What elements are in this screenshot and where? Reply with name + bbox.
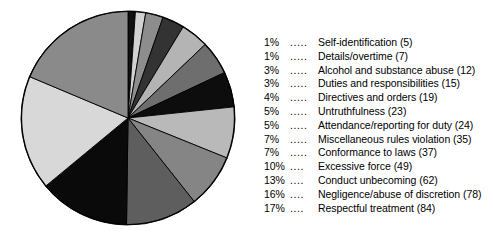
legend-row: 7%.....Conformance to laws (37) [264, 146, 492, 160]
legend-percent: 13% [264, 174, 290, 188]
legend-dot-leader: ..... [290, 36, 318, 50]
legend-percent: 7% [264, 133, 290, 147]
legend-label: Conformance to laws (37) [318, 146, 492, 160]
legend-label: Excessive force (49) [318, 160, 492, 174]
legend-dot-leader: .... [290, 160, 318, 174]
legend-percent: 3% [264, 64, 290, 78]
legend-row: 1%.....Details/overtime (7) [264, 50, 492, 64]
legend-label: Alcohol and substance abuse (12) [318, 64, 492, 78]
legend-dot-leader: ..... [290, 105, 318, 119]
legend-percent: 7% [264, 146, 290, 160]
chart-legend: 1%.....Self-identification (5)1%.....Det… [264, 36, 492, 215]
legend-row: 16%....Negligence/abuse of discretion (7… [264, 188, 492, 202]
legend-label: Attendance/reporting for duty (24) [318, 119, 492, 133]
legend-dot-leader: ..... [290, 50, 318, 64]
legend-percent: 5% [264, 105, 290, 119]
legend-row: 3%.....Alcohol and substance abuse (12) [264, 64, 492, 78]
legend-label: Directives and orders (19) [318, 91, 492, 105]
pie-chart-figure: 1%.....Self-identification (5)1%.....Det… [0, 0, 493, 235]
legend-label: Self-identification (5) [318, 36, 492, 50]
legend-dot-leader: ..... [290, 119, 318, 133]
legend-row: 5%.....Attendance/reporting for duty (24… [264, 119, 492, 133]
legend-percent: 16% [264, 188, 290, 202]
legend-row: 1%.....Self-identification (5) [264, 36, 492, 50]
legend-row: 4%.....Directives and orders (19) [264, 91, 492, 105]
legend-percent: 1% [264, 50, 290, 64]
legend-row: 3%.....Duties and responsibilities (15) [264, 77, 492, 91]
legend-percent: 5% [264, 119, 290, 133]
legend-label: Conduct unbecoming (62) [318, 174, 492, 188]
legend-label: Negligence/abuse of discretion (78) [318, 188, 492, 202]
legend-label: Duties and responsibilities (15) [318, 77, 492, 91]
pie-svg [20, 10, 236, 226]
legend-dot-leader: ..... [290, 91, 318, 105]
legend-dot-leader: .... [290, 202, 318, 216]
legend-percent: 17% [264, 202, 290, 216]
legend-label: Respectful treatment (84) [318, 202, 492, 216]
legend-label: Untruthfulness (23) [318, 105, 492, 119]
legend-row: 13%....Conduct unbecoming (62) [264, 174, 492, 188]
legend-percent: 3% [264, 77, 290, 91]
legend-percent: 4% [264, 91, 290, 105]
legend-row: 7%.....Miscellaneous rules violation (35… [264, 133, 492, 147]
legend-label: Miscellaneous rules violation (35) [318, 133, 492, 147]
legend-percent: 10% [264, 160, 290, 174]
legend-dot-leader: ..... [290, 133, 318, 147]
legend-dot-leader: ..... [290, 64, 318, 78]
legend-dot-leader: ..... [290, 77, 318, 91]
legend-row: 10%....Excessive force (49) [264, 160, 492, 174]
legend-percent: 1% [264, 36, 290, 50]
legend-row: 17%....Respectful treatment (84) [264, 202, 492, 216]
legend-dot-leader: ..... [290, 146, 318, 160]
legend-label: Details/overtime (7) [318, 50, 492, 64]
legend-dot-leader: .... [290, 174, 318, 188]
pie-chart-graphic [20, 10, 236, 226]
legend-row: 5%.....Untruthfulness (23) [264, 105, 492, 119]
legend-dot-leader: .... [290, 188, 318, 202]
